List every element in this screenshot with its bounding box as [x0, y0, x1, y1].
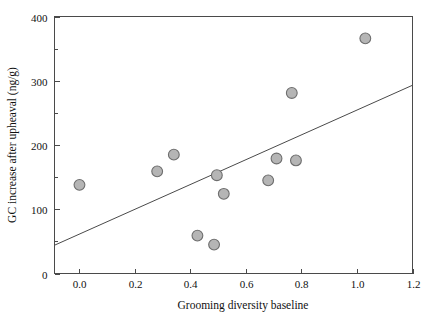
- chart-canvas: 0.00.20.40.60.81.01.2 0100200300400 Groo…: [0, 0, 432, 321]
- x-tick-label: 0.6: [240, 278, 254, 290]
- x-axis-ticks: [80, 269, 414, 274]
- data-point: [211, 170, 222, 181]
- data-point: [360, 33, 371, 44]
- data-point: [152, 166, 163, 177]
- data-point: [291, 155, 302, 166]
- y-tick-label: 0: [42, 269, 48, 281]
- y-axis-ticks: [55, 18, 60, 275]
- x-axis-title: Grooming diversity baseline: [178, 299, 309, 312]
- data-point: [192, 230, 203, 241]
- y-tick-label: 300: [31, 76, 48, 88]
- x-tick-label: 1.0: [351, 278, 365, 290]
- x-tick-label: 1.2: [407, 278, 421, 290]
- y-axis-tick-labels: 0100200300400: [31, 12, 48, 281]
- x-tick-label: 0.2: [129, 278, 143, 290]
- x-tick-label: 0.4: [184, 278, 198, 290]
- x-tick-label: 0.0: [73, 278, 87, 290]
- x-axis-tick-labels: 0.00.20.40.60.81.01.2: [73, 278, 421, 290]
- x-tick-label: 0.8: [295, 278, 309, 290]
- data-point: [263, 175, 274, 186]
- data-point-group: [74, 33, 371, 250]
- data-point: [209, 239, 220, 250]
- y-tick-label: 400: [31, 12, 48, 24]
- data-point: [218, 188, 229, 199]
- data-point: [286, 88, 297, 99]
- data-point: [168, 149, 179, 160]
- regression-line: [55, 85, 413, 245]
- y-tick-label: 100: [31, 204, 48, 216]
- y-tick-label: 200: [31, 140, 48, 152]
- plot-frame: [55, 17, 413, 274]
- y-axis-title: GC increase after upheaval (ng/g): [6, 67, 19, 223]
- scatter-plot-figure: 0.00.20.40.60.81.01.2 0100200300400 Groo…: [0, 0, 432, 321]
- data-point: [74, 179, 85, 190]
- data-point: [271, 153, 282, 164]
- regression-line-group: [55, 85, 413, 245]
